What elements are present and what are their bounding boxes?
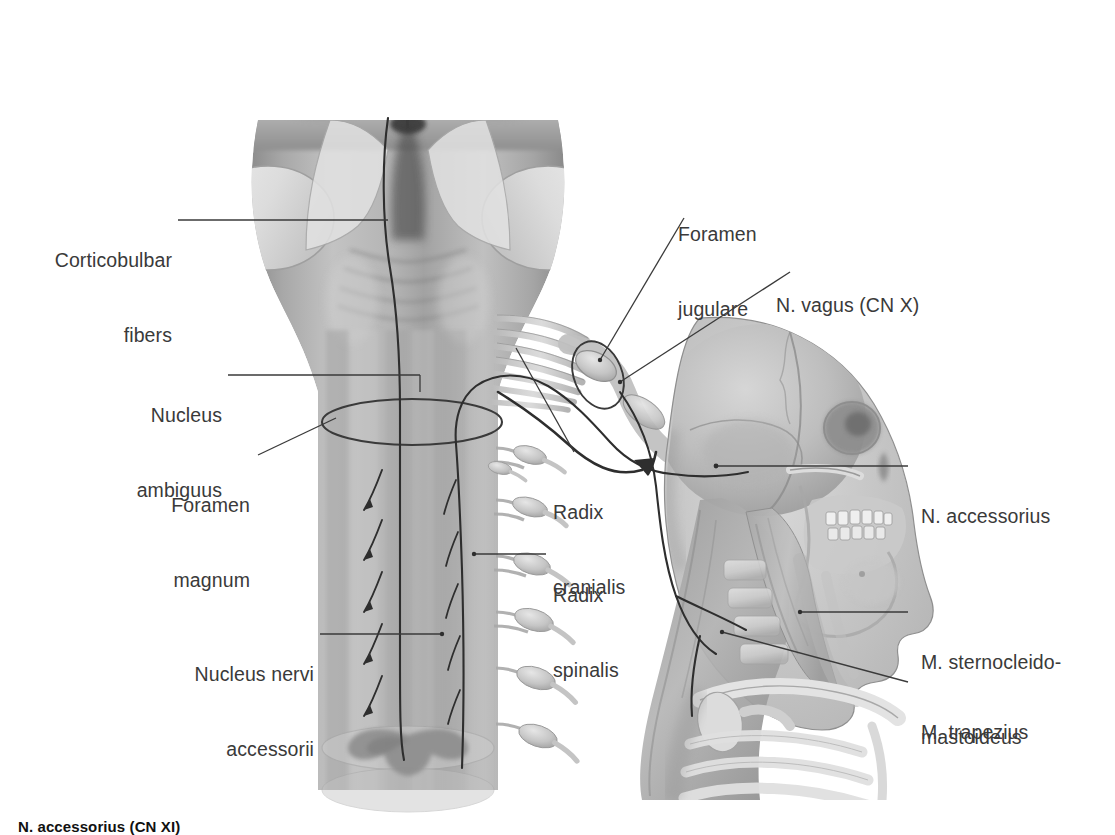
label-line-2: magnum — [60, 568, 250, 593]
label-m-trapezius: M. trapezius — [921, 670, 1028, 795]
label-nucleus-nervi-accessorii: Nucleus nervi accessorii — [110, 612, 314, 812]
label-line-1: Nucleus nervi — [110, 662, 314, 687]
label-line-2: fibers — [0, 323, 172, 348]
figure-caption: N. accessorius (CN XI) — [18, 818, 180, 835]
label-foramen-jugulare: Foramen jugulare — [678, 172, 757, 372]
label-line-1: Nucleus — [40, 403, 222, 428]
label-line-1: M. trapezius — [921, 720, 1028, 745]
label-line-2: jugulare — [678, 297, 757, 322]
label-line-2: spinalis — [553, 658, 619, 683]
label-line-1: Radix — [553, 500, 625, 525]
label-n-accessorius: N. accessorius — [921, 454, 1050, 579]
label-line-1: Foramen — [60, 493, 250, 518]
label-line-2: accessorii — [110, 737, 314, 762]
label-line-1: Foramen — [678, 222, 757, 247]
label-line-1: N. accessorius — [921, 504, 1050, 529]
label-n-vagus: N. vagus (CN X) — [776, 243, 919, 368]
label-line-1: Radix — [553, 583, 619, 608]
label-radix-spinalis: Radix spinalis — [553, 533, 619, 733]
label-line-1: Corticobulbar — [0, 248, 172, 273]
label-line-1: N. vagus (CN X) — [776, 293, 919, 318]
